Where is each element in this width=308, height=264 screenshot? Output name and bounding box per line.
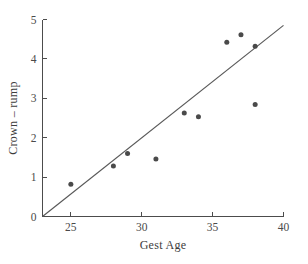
x-tick-label: 40: [278, 221, 290, 233]
x-tick-label: 30: [136, 221, 148, 233]
data-point: [68, 182, 73, 187]
axes-group: [43, 20, 284, 217]
y-axis-title: Crown – rump: [6, 81, 20, 155]
x-axis-title: Gest Age: [140, 238, 187, 252]
data-point: [153, 156, 158, 161]
data-point: [224, 40, 229, 45]
x-tick-label: 25: [65, 221, 77, 233]
scatter-plot-figure: 25303540Gest Age012345Crown – rump: [0, 0, 308, 264]
data-points-group: [68, 32, 257, 186]
axis-spine: [43, 20, 284, 217]
regression-line: [43, 25, 284, 216]
y-axis: 012345Crown – rump: [6, 14, 47, 223]
chart-canvas: 25303540Gest Age012345Crown – rump: [0, 0, 308, 264]
y-tick-label: 3: [31, 92, 37, 104]
y-tick-label: 0: [31, 211, 37, 223]
x-axis: 25303540Gest Age: [65, 212, 289, 252]
data-point: [253, 44, 258, 49]
y-tick-label: 2: [31, 132, 37, 144]
data-point: [182, 110, 187, 115]
data-point: [238, 32, 243, 37]
x-tick-label: 35: [207, 221, 219, 233]
data-point: [253, 102, 258, 107]
y-tick-label: 1: [31, 171, 37, 183]
y-tick-label: 4: [31, 53, 37, 65]
data-point: [196, 114, 201, 119]
data-point: [111, 164, 116, 169]
data-point: [125, 151, 130, 156]
y-tick-label: 5: [31, 14, 37, 26]
